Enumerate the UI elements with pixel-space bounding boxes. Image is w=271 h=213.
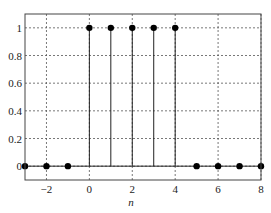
y-tick-label: 0.4	[8, 105, 22, 117]
x-tick-label: 2	[130, 183, 136, 195]
stem-plot: 00.20.40.60.81 −202468 n	[0, 0, 271, 213]
y-axis-ticks: 00.20.40.60.81	[8, 22, 22, 172]
stem-marker	[129, 25, 135, 31]
x-tick-label: 6	[215, 183, 221, 195]
y-tick-label: 0.6	[8, 77, 22, 89]
stem-marker	[236, 163, 242, 169]
stem-marker	[43, 163, 49, 169]
y-tick-label: 0	[17, 160, 23, 172]
x-axis-ticks: −202468	[41, 183, 265, 195]
x-tick-label: 0	[87, 183, 93, 195]
stem-marker	[151, 25, 157, 31]
y-tick-label: 0.8	[8, 50, 22, 62]
stem-marker	[65, 163, 71, 169]
y-tick-label: 0.2	[8, 133, 22, 145]
stem-marker	[193, 163, 199, 169]
x-tick-label: 8	[258, 183, 264, 195]
stem-marker	[172, 25, 178, 31]
stem-series	[22, 25, 264, 170]
grid-lines	[25, 14, 261, 180]
stem-marker	[86, 25, 92, 31]
x-tick-label: −2	[41, 183, 53, 195]
x-tick-label: 4	[172, 183, 178, 195]
plot-frame	[25, 14, 261, 180]
y-tick-label: 1	[17, 22, 23, 34]
stem-marker	[108, 25, 114, 31]
stem-marker	[215, 163, 221, 169]
x-axis-label: n	[128, 196, 134, 208]
